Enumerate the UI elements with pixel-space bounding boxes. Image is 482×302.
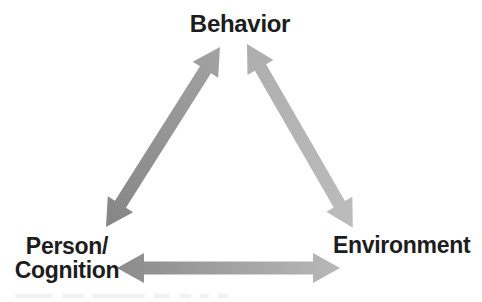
arrow-behavior-environment <box>234 37 366 236</box>
person-cognition-line1: Person/ <box>6 234 128 258</box>
reciprocal-determinism-diagram: Behavior Person/ Cognition Environment <box>0 0 482 302</box>
cropped-caption-remnant <box>15 294 228 299</box>
node-behavior-label: Behavior <box>140 12 340 36</box>
arrow-behavior-person <box>93 39 232 235</box>
arrow-person-environment <box>117 253 340 283</box>
node-environment-label: Environment <box>333 233 470 257</box>
person-cognition-line2: Cognition <box>6 258 128 282</box>
node-person-cognition-label: Person/ Cognition <box>6 234 128 282</box>
